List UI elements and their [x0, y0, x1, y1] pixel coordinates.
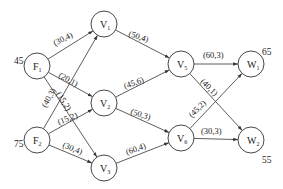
edge-label: (45,2): [186, 98, 208, 120]
node-v5: V5: [168, 51, 194, 77]
flow-network-diagram: (30,4)(20,1)(15,2)(40,3)(15,2)(30,4)(50,…: [0, 0, 283, 189]
node-v2: V2: [91, 90, 117, 116]
node-v6: V6: [168, 125, 194, 151]
supply-value: 75: [14, 139, 24, 149]
edge-label: (30,4): [61, 140, 84, 157]
node-w2: W2: [238, 127, 264, 153]
edge-label: (60,4): [124, 140, 147, 156]
edge-v6-w2: [194, 138, 238, 139]
edge-label: (30,3): [201, 126, 222, 136]
demand-value: 65: [262, 47, 272, 57]
node-f2: F2: [24, 127, 50, 153]
node-w1: W1: [238, 51, 264, 77]
demand-value: 55: [262, 155, 272, 165]
node-v3: V3: [91, 155, 117, 181]
node-f1: F1: [24, 53, 50, 79]
edge-label: (15,2): [54, 90, 73, 113]
edge-label: (45,6): [122, 74, 145, 90]
supply-value: 45: [14, 56, 24, 66]
edge-label: (60,3): [203, 50, 224, 60]
node-v1: V1: [91, 11, 117, 37]
edge-label: (40,3): [39, 86, 58, 109]
arrow-icon: [194, 138, 238, 139]
